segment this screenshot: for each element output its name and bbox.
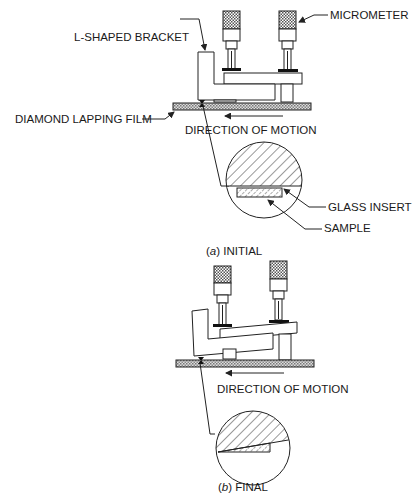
label-glass-insert: GLASS INSERT xyxy=(328,201,412,213)
lapping-fixture-diagram: MICROMETER L-SHAPED BRACKET DIAMOND LAPP… xyxy=(0,0,418,502)
caption-b: (b) FINAL xyxy=(218,481,268,493)
top-plate xyxy=(224,73,302,84)
figure-a-initial xyxy=(142,11,328,229)
support-post xyxy=(281,84,293,102)
label-micrometer: MICROMETER xyxy=(330,9,409,21)
detail-circle-a xyxy=(220,140,320,218)
micrometer-left xyxy=(222,11,241,71)
label-sample: SAMPLE xyxy=(324,222,371,234)
label-diamond-lapping-film: DIAMOND LAPPING FILM xyxy=(15,113,152,125)
diamond-lapping-film-b xyxy=(176,360,314,367)
figure-b-final xyxy=(176,261,314,485)
label-direction-of-motion-b: DIRECTION OF MOTION xyxy=(217,383,349,395)
micrometer-right-b xyxy=(269,261,289,323)
micrometer-right xyxy=(278,11,298,72)
label-l-shaped-bracket: L-SHAPED BRACKET xyxy=(74,31,189,43)
micrometer-left-b xyxy=(213,266,232,327)
detail-circle-b xyxy=(210,410,300,485)
label-direction-of-motion-a: DIRECTION OF MOTION xyxy=(185,124,317,136)
caption-a: (a) INITIAL xyxy=(206,245,263,257)
diamond-lapping-film xyxy=(173,103,311,110)
